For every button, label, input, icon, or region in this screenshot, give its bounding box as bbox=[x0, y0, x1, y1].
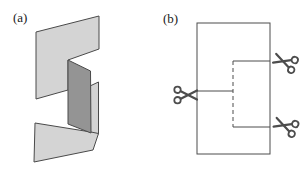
paper-sheet-outline bbox=[197, 23, 270, 154]
folded-paper-diagram bbox=[34, 16, 99, 162]
cut-pattern-diagram bbox=[174, 23, 299, 154]
scissors-icon bbox=[272, 50, 299, 74]
figure-svg bbox=[0, 0, 301, 175]
scissors-icon bbox=[174, 87, 197, 104]
scissors-icon bbox=[272, 114, 299, 138]
paper-middle-fold bbox=[68, 60, 91, 133]
figure: (a) (b) bbox=[0, 0, 301, 175]
